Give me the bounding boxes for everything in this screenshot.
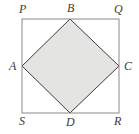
vertex-label-p: P bbox=[19, 3, 26, 15]
vertex-label-r: R bbox=[114, 115, 121, 127]
vertex-label-a: A bbox=[9, 60, 16, 72]
vertex-label-q: Q bbox=[114, 3, 123, 15]
inscribed-square-abcd bbox=[22, 19, 119, 113]
vertex-label-c: C bbox=[124, 60, 132, 72]
vertex-label-d: D bbox=[66, 116, 75, 128]
vertex-label-s: S bbox=[19, 115, 25, 127]
geometry-figure: P B Q A C S D R bbox=[0, 0, 139, 134]
vertex-label-b: B bbox=[67, 2, 74, 14]
